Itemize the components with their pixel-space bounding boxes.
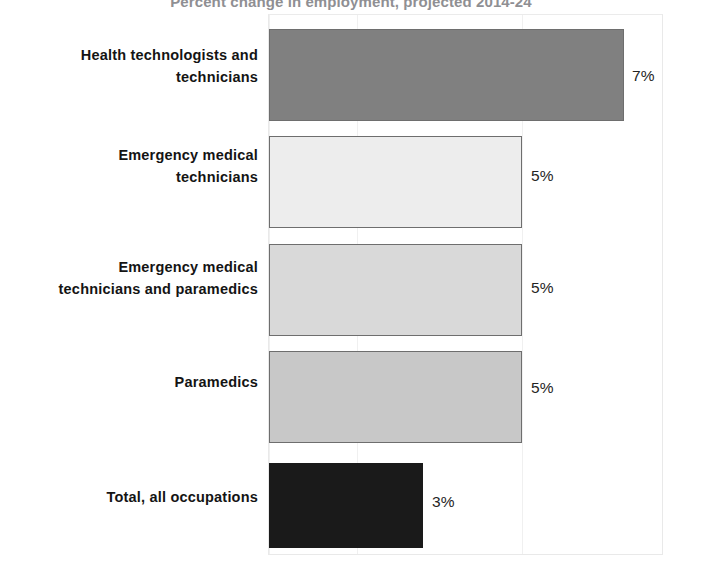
bar-row: Total, all occupations 3% bbox=[0, 443, 702, 551]
bar-health-technologists[interactable] bbox=[269, 29, 624, 121]
bar-chart: Percent change in employment, projected … bbox=[0, 0, 702, 576]
category-label-line1: Total, all occupations bbox=[106, 489, 258, 505]
bar-total-all-occupations[interactable] bbox=[269, 463, 423, 548]
category-label-line1: Health technologists and bbox=[81, 47, 258, 63]
category-label: Health technologists and technicians bbox=[0, 44, 258, 88]
category-label-line1: Emergency medical bbox=[118, 259, 258, 275]
bar-emergency-medical-technicians[interactable] bbox=[269, 136, 522, 228]
category-label-line2: technicians and paramedics bbox=[59, 281, 258, 297]
chart-title: Percent change in employment, projected … bbox=[0, 0, 702, 10]
bar-row: Paramedics 5% bbox=[0, 336, 702, 444]
bar-emergency-medical-technicians-and-paramedics[interactable] bbox=[269, 244, 522, 336]
bar-row: Emergency medical technicians and parame… bbox=[0, 228, 702, 336]
category-label-line1: Paramedics bbox=[175, 374, 258, 390]
bar-row: Emergency medical technicians 5% bbox=[0, 121, 702, 229]
value-label: 5% bbox=[531, 279, 554, 297]
value-label: 3% bbox=[432, 493, 455, 511]
bar-paramedics[interactable] bbox=[269, 351, 522, 443]
category-label-line1: Emergency medical bbox=[118, 147, 258, 163]
category-label: Emergency medical technicians bbox=[0, 144, 258, 188]
category-label-line2: technicians bbox=[176, 69, 258, 85]
category-label: Paramedics bbox=[0, 371, 258, 393]
value-label: 5% bbox=[531, 379, 554, 397]
category-label: Emergency medical technicians and parame… bbox=[0, 256, 258, 300]
category-label-line2: technicians bbox=[176, 169, 258, 185]
bar-row: Health technologists and technicians 7% bbox=[0, 14, 702, 122]
value-label: 5% bbox=[531, 167, 554, 185]
category-label: Total, all occupations bbox=[0, 486, 258, 508]
value-label: 7% bbox=[632, 67, 655, 85]
